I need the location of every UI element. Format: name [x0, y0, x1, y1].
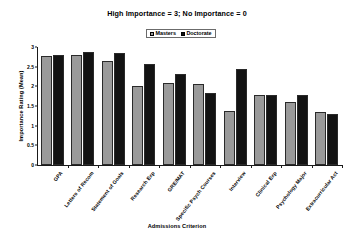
bar-doctorate	[144, 64, 155, 165]
bar-group	[190, 47, 221, 165]
legend-label-doctorate: Doctorate	[186, 31, 211, 36]
x-tick-label-text: Research Exp	[129, 170, 156, 202]
x-tick-mark	[98, 165, 99, 168]
x-tick-label-text: GRE/MAT	[166, 170, 186, 193]
bar-group	[281, 47, 312, 165]
bar-masters	[71, 55, 82, 165]
bar-doctorate	[327, 114, 338, 165]
bar-doctorate	[297, 95, 308, 165]
legend-swatch-doctorate-icon	[181, 32, 185, 36]
bar-masters	[193, 84, 204, 165]
bar-masters	[41, 56, 52, 165]
bar-group	[129, 47, 160, 165]
x-tick-label-text: Statement of Goals	[90, 170, 125, 212]
bar-group	[68, 47, 99, 165]
bar-masters	[132, 86, 143, 165]
bar-doctorate	[266, 95, 277, 165]
bar-group	[98, 47, 129, 165]
x-tick-mark	[190, 165, 191, 168]
x-tick-label-text: Letters of Recom	[63, 170, 95, 208]
y-axis-title: Importance Rating (Mean)	[18, 46, 24, 166]
bar-group	[312, 47, 343, 165]
bar-masters	[163, 83, 174, 165]
bar-masters	[102, 61, 113, 165]
x-tick-mark	[342, 165, 343, 168]
x-tick-mark	[129, 165, 130, 168]
legend-swatch-masters-icon	[150, 32, 154, 36]
bar-doctorate	[205, 93, 216, 165]
bar-group	[159, 47, 190, 165]
x-tick-label-text: Interview	[228, 170, 247, 192]
legend-label-masters: Masters	[156, 31, 176, 36]
x-tick-label-text: Clinical Exp	[254, 170, 278, 198]
bar-doctorate	[236, 69, 247, 165]
bar-chart: High Importance = 3; No Importance = 0 M…	[0, 0, 354, 240]
bar-masters	[285, 102, 296, 165]
x-tick-mark	[159, 165, 160, 168]
bar-doctorate	[53, 55, 64, 165]
bar-masters	[254, 95, 265, 165]
bar-masters	[224, 111, 235, 165]
chart-legend: Masters Doctorate	[146, 29, 216, 38]
bar-doctorate	[83, 52, 94, 165]
bar-doctorate	[114, 53, 125, 165]
plot-area: 00.511.522.53	[37, 47, 342, 165]
x-tick-label-text: GPA	[52, 170, 64, 182]
x-axis-title: Admissions Criterion	[0, 223, 354, 229]
bar-series-layer	[37, 47, 342, 165]
bar-doctorate	[175, 74, 186, 165]
x-tick-mark	[220, 165, 221, 168]
bar-group	[220, 47, 251, 165]
chart-title: High Importance = 3; No Importance = 0	[0, 9, 354, 18]
x-tick-mark	[312, 165, 313, 168]
bar-group	[37, 47, 68, 165]
x-tick-mark	[281, 165, 282, 168]
bar-masters	[315, 112, 326, 165]
x-tick-label-text: Specific Psych Courses	[174, 170, 216, 222]
x-tick-mark	[68, 165, 69, 168]
x-tick-label-text: Psychology Major	[275, 170, 308, 210]
legend-item-masters: Masters	[150, 31, 176, 36]
legend-item-doctorate: Doctorate	[181, 31, 212, 36]
x-tick-mark	[251, 165, 252, 168]
bar-group	[251, 47, 282, 165]
x-tick-label-text: Extracurricular Act	[304, 170, 339, 212]
